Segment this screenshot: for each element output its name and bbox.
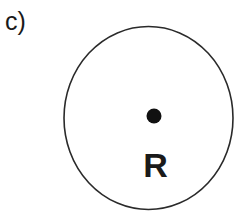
point-dot bbox=[147, 109, 162, 124]
region-label: R bbox=[143, 146, 168, 184]
figure-canvas: R bbox=[0, 0, 252, 216]
